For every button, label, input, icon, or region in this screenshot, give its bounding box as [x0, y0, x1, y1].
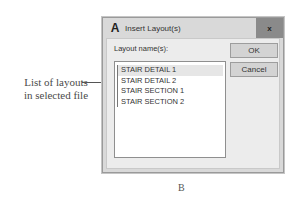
- figure-label: B: [178, 182, 185, 193]
- list-item[interactable]: STAIR DETAIL 1: [117, 65, 223, 76]
- list-item[interactable]: STAIR DETAIL 2: [117, 76, 223, 87]
- title-bar[interactable]: A Insert Layout(s) x: [103, 18, 283, 38]
- cancel-button[interactable]: Cancel: [230, 62, 278, 77]
- layout-list[interactable]: STAIR DETAIL 1 STAIR DETAIL 2 STAIR SECT…: [114, 61, 226, 158]
- layout-names-label: Layout name(s):: [114, 44, 168, 53]
- close-button[interactable]: x: [256, 18, 283, 38]
- close-icon: x: [267, 24, 271, 33]
- dialog-title: Insert Layout(s): [125, 24, 181, 33]
- annotation-line-2: in selected file: [6, 89, 106, 102]
- dialog-body: Layout name(s): STAIR DETAIL 1 STAIR DET…: [106, 38, 280, 169]
- annotation-callout: List of layouts in selected file: [6, 76, 106, 102]
- ok-button[interactable]: OK: [230, 43, 278, 58]
- autocad-logo-icon: A: [109, 22, 121, 34]
- list-item[interactable]: STAIR SECTION 2: [117, 97, 223, 108]
- list-item[interactable]: STAIR SECTION 1: [117, 86, 223, 97]
- insert-layouts-dialog: A Insert Layout(s) x Layout name(s): STA…: [102, 17, 284, 173]
